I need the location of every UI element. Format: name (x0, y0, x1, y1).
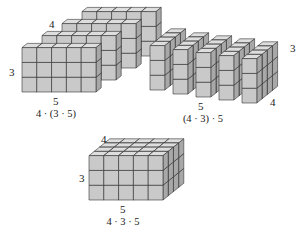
bottom-height-label: 3 (79, 172, 85, 184)
left-layers-label: 4 (49, 18, 55, 30)
bottom-width-label: 5 (120, 203, 126, 215)
left-width-label: 5 (53, 95, 59, 107)
right-arrangement-columns (150, 29, 278, 103)
right-expression: (4 · 3) · 5 (183, 113, 223, 125)
bottom-expression: 4 · 3 · 5 (106, 216, 139, 227)
bottom-arrangement-solid (89, 139, 184, 200)
left-arrangement-slabs (22, 7, 161, 92)
right-columns-label: 5 (198, 100, 204, 112)
left-height-label: 3 (9, 66, 15, 78)
bottom-depth-label: 4 (101, 133, 107, 145)
right-height-label: 3 (290, 42, 296, 54)
right-depth-label: 4 (270, 96, 276, 108)
associative-property-figure: 4 3 5 4 · (3 · 5) 3 4 5 (4 · 3) · 5 4 3 … (0, 0, 304, 238)
left-expression: 4 · (3 · 5) (36, 108, 77, 120)
